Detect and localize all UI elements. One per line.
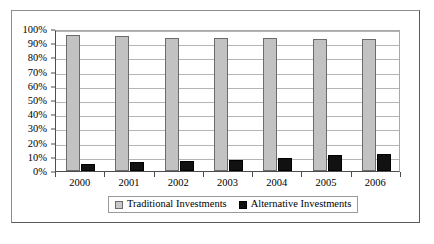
x-axis-tick-mark — [351, 172, 352, 177]
x-axis-tick-label: 2003 — [217, 178, 238, 189]
legend-label: Traditional Investments — [127, 199, 227, 210]
legend-swatch-icon — [115, 201, 123, 209]
legend-entry-alternative[interactable]: Alternative Investments — [239, 199, 352, 210]
x-axis-tick-mark — [252, 172, 253, 177]
x-axis-tick-mark — [203, 172, 204, 177]
bar-group — [352, 31, 401, 171]
bar-traditional-2004 — [263, 38, 277, 171]
y-axis-tick-label: 10% — [28, 153, 47, 164]
bar-group — [56, 31, 105, 171]
y-axis-tick-label: 30% — [28, 124, 47, 135]
bar-traditional-2002 — [165, 38, 179, 171]
bar-traditional-2006 — [362, 39, 376, 171]
bar-alternative-2001 — [130, 162, 144, 171]
y-axis-tick-label: 80% — [28, 53, 47, 64]
y-axis-tick-label: 20% — [28, 138, 47, 149]
chart-figure: 0%10%20%30%40%50%60%70%80%90%100% 200020… — [0, 0, 434, 244]
bar-group — [253, 31, 302, 171]
x-axis-tick-mark — [154, 172, 155, 177]
bar-group — [302, 31, 351, 171]
plot-area — [55, 30, 400, 172]
bar-alternative-2004 — [278, 158, 292, 171]
y-axis-tick-label: 90% — [28, 39, 47, 50]
x-axis-tick-label: 2002 — [168, 178, 189, 189]
y-axis-tick-label: 50% — [28, 96, 47, 107]
bar-group — [204, 31, 253, 171]
x-axis-tick-label: 2001 — [118, 178, 139, 189]
legend-label: Alternative Investments — [251, 199, 352, 210]
bar-alternative-2003 — [229, 160, 243, 171]
bar-traditional-2001 — [115, 36, 129, 171]
y-axis-tick-label: 0% — [33, 167, 47, 178]
bar-traditional-2000 — [66, 35, 80, 171]
bar-traditional-2003 — [214, 38, 228, 171]
x-axis-tick-mark — [104, 172, 105, 177]
bar-group — [105, 31, 154, 171]
x-axis-tick-label: 2004 — [266, 178, 287, 189]
x-axis-tick-mark — [301, 172, 302, 177]
x-axis: 2000200120022003200420052006 — [55, 172, 400, 196]
bar-traditional-2005 — [313, 39, 327, 171]
y-axis-tick-label: 40% — [28, 110, 47, 121]
y-axis-tick-label: 100% — [23, 25, 48, 36]
y-axis-tick-label: 70% — [28, 67, 47, 78]
x-axis-tick-mark — [55, 172, 56, 177]
bar-alternative-2000 — [81, 164, 95, 171]
y-axis-tick-label: 60% — [28, 82, 47, 93]
bar-alternative-2006 — [377, 154, 391, 171]
legend-swatch-icon — [239, 201, 247, 209]
chart-legend: Traditional InvestmentsAlternative Inves… — [108, 196, 358, 213]
x-axis-tick-mark — [400, 172, 401, 177]
legend-entry-traditional[interactable]: Traditional Investments — [115, 199, 227, 210]
y-axis: 0%10%20%30%40%50%60%70%80%90%100% — [0, 0, 55, 182]
x-axis-tick-label: 2005 — [316, 178, 337, 189]
x-axis-tick-label: 2000 — [69, 178, 90, 189]
x-axis-tick-label: 2006 — [365, 178, 386, 189]
bar-alternative-2005 — [328, 155, 342, 171]
bar-alternative-2002 — [180, 161, 194, 171]
bar-group — [155, 31, 204, 171]
